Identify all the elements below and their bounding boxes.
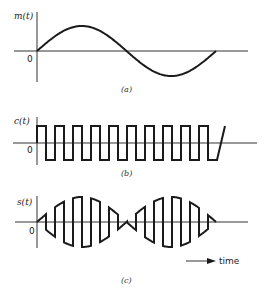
panel-b: c(t) 0 (b) — [13, 116, 257, 178]
panel-b-origin-label: 0 — [27, 145, 33, 155]
time-arrow-icon — [207, 258, 216, 264]
panel-c-signal-label: s(t) — [17, 197, 33, 207]
panel-a-caption: (a) — [121, 85, 132, 94]
panel-a: m(t) 0 (a) — [14, 11, 248, 94]
panel-b-caption: (b) — [121, 169, 132, 178]
panel-b-signal-label: c(t) — [14, 116, 30, 126]
time-axis-label: time — [219, 256, 240, 266]
panel-a-origin-label: 0 — [27, 54, 33, 64]
panel-c-origin-label: 0 — [29, 226, 35, 236]
modulation-diagram: m(t) 0 (a) c(t) 0 (b) s(t) 0 (c) time — [0, 0, 267, 297]
panel-c: s(t) 0 (c) time — [15, 196, 248, 285]
panel-a-signal-label: m(t) — [14, 11, 34, 21]
modulated-waveform — [37, 197, 216, 247]
panel-c-caption: (c) — [121, 276, 132, 285]
